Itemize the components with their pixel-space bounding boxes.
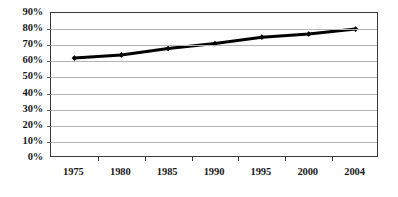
y-tick-label: 10% [0, 136, 43, 146]
y-axis: 90%80%70%60%50%40%30%20%10%0% [0, 0, 46, 197]
y-axis-tick [47, 110, 51, 111]
y-tick-label: 70% [0, 39, 43, 49]
gridline [51, 77, 377, 78]
x-tick-label: 1980 [110, 166, 131, 178]
x-tick-label: 1975 [63, 166, 84, 178]
gridline [51, 61, 377, 62]
gridline [51, 94, 377, 95]
y-axis-tick [47, 126, 51, 127]
y-tick-label: 30% [0, 104, 43, 114]
plot-area [50, 12, 378, 157]
y-axis-tick [47, 77, 51, 78]
gridline [51, 110, 377, 111]
data-point-marker [72, 55, 78, 61]
x-axis: 1975198019851990199520002004 [50, 166, 378, 186]
y-axis-tick [47, 45, 51, 46]
data-point-marker [165, 46, 171, 52]
x-axis-tick [98, 157, 99, 161]
y-tick-label: 50% [0, 71, 43, 81]
x-axis-tick [145, 157, 146, 161]
x-tick-label: 1995 [251, 166, 272, 178]
y-axis-tick [47, 142, 51, 143]
data-series-line [51, 13, 379, 158]
y-tick-label: 60% [0, 55, 43, 65]
x-axis-tick [192, 157, 193, 161]
x-tick-label: 1985 [157, 166, 178, 178]
line-chart: 90%80%70%60%50%40%30%20%10%0% 1975198019… [0, 0, 398, 197]
data-point-marker [118, 52, 124, 58]
y-axis-tick [47, 61, 51, 62]
gridline [51, 126, 377, 127]
x-tick-label: 2000 [297, 166, 318, 178]
y-tick-label: 20% [0, 120, 43, 130]
x-tick-label: 1990 [204, 166, 225, 178]
x-axis-tick [238, 157, 239, 161]
gridline [51, 45, 377, 46]
y-tick-label: 80% [0, 23, 43, 33]
x-axis-tick [285, 157, 286, 161]
gridline [51, 29, 377, 30]
y-axis-tick [47, 94, 51, 95]
data-point-marker [306, 31, 312, 37]
x-tick-label: 2004 [344, 166, 365, 178]
y-tick-label: 0% [0, 152, 43, 162]
y-tick-label: 90% [0, 7, 43, 17]
y-axis-tick [47, 29, 51, 30]
x-axis-tick [332, 157, 333, 161]
y-tick-label: 40% [0, 88, 43, 98]
data-point-marker [259, 34, 265, 40]
gridline [51, 142, 377, 143]
